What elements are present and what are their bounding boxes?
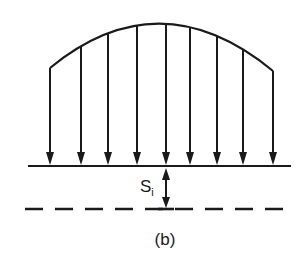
arrowhead-down-icon <box>104 152 112 165</box>
arrowhead-down-icon <box>186 152 194 165</box>
settlement-dimension-arrow <box>158 168 174 209</box>
settlement-label: Si <box>140 177 154 198</box>
arrowhead-down-icon <box>162 197 170 208</box>
arrowhead-down-icon <box>162 152 170 165</box>
load-arrows <box>46 24 277 165</box>
figure-caption: (b) <box>155 230 176 249</box>
arrowhead-down-icon <box>213 152 221 165</box>
arrowhead-down-icon <box>239 152 247 165</box>
arrowhead-down-icon <box>133 152 141 165</box>
settlement-diagram: Si (b) <box>0 0 302 258</box>
diagram-canvas: Si (b) <box>0 0 302 258</box>
arrowhead-down-icon <box>77 152 85 165</box>
settlement-label-main: S <box>140 177 151 196</box>
settlement-label-subscript: i <box>151 186 153 198</box>
arrowhead-up-icon <box>162 168 170 180</box>
arrowhead-down-icon <box>46 152 54 165</box>
load-curve <box>50 24 273 71</box>
arrowhead-down-icon <box>269 152 277 165</box>
